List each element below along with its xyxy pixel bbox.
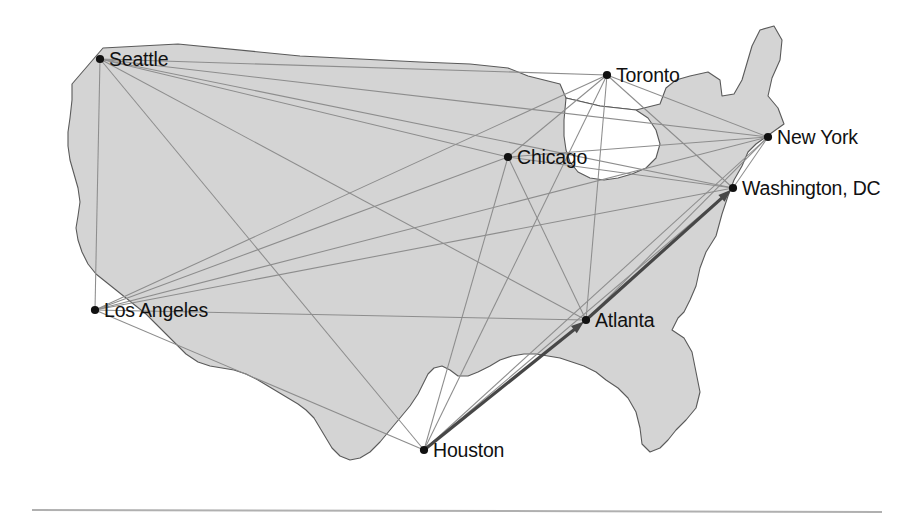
city-dot-washington[interactable]: [729, 184, 737, 192]
city-marker-chicago[interactable]: Chicago: [504, 146, 588, 168]
divider-line: [32, 510, 882, 512]
city-label-atlanta: Atlanta: [595, 309, 655, 331]
us-outline-shape: [68, 26, 784, 460]
us-landmass: [68, 26, 784, 460]
city-dot-seattle[interactable]: [96, 55, 104, 63]
map-figure: SeattleTorontoNew YorkWashington, DCChic…: [0, 0, 914, 529]
city-label-washington: Washington, DC: [742, 177, 881, 199]
city-marker-new-york[interactable]: New York: [764, 126, 858, 148]
city-marker-toronto[interactable]: Toronto: [603, 64, 680, 86]
city-dot-houston[interactable]: [420, 446, 428, 454]
city-dot-toronto[interactable]: [603, 71, 611, 79]
city-label-seattle: Seattle: [109, 48, 168, 70]
city-label-chicago: Chicago: [517, 146, 587, 168]
city-label-new-york: New York: [777, 126, 858, 148]
footer-divider: [32, 510, 882, 512]
city-dot-new-york[interactable]: [764, 133, 772, 141]
city-label-houston: Houston: [433, 439, 504, 461]
us-route-map: SeattleTorontoNew YorkWashington, DCChic…: [0, 0, 914, 529]
city-marker-houston[interactable]: Houston: [420, 439, 504, 461]
city-marker-los-angeles[interactable]: Los Angeles: [91, 299, 209, 321]
city-dot-atlanta[interactable]: [582, 316, 590, 324]
city-marker-washington[interactable]: Washington, DC: [729, 177, 881, 199]
city-label-los-angeles: Los Angeles: [104, 299, 209, 321]
city-dot-chicago[interactable]: [504, 153, 512, 161]
city-label-toronto: Toronto: [616, 64, 680, 86]
city-dot-los-angeles[interactable]: [91, 306, 99, 314]
